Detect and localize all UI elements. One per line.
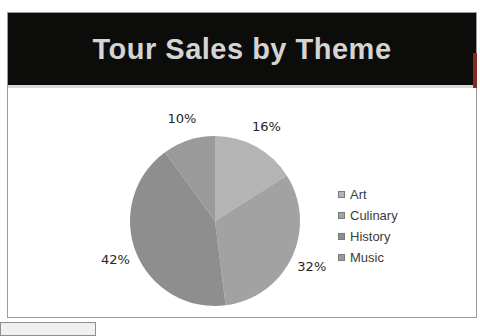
- legend-swatch-icon: [338, 233, 345, 240]
- pie-chart-svg: 16%32%42%10%: [8, 88, 478, 316]
- pie-label-music: 10%: [167, 111, 196, 126]
- clipped-bottom-element: [0, 322, 96, 336]
- pie-chart-area: 16%32%42%10% ArtCulinaryHistoryMusic: [8, 88, 476, 317]
- legend-item-culinary: Culinary: [338, 208, 398, 223]
- legend-swatch-icon: [338, 212, 345, 219]
- figure-caption-text: FIGURE P-65: [4, 0, 76, 2]
- title-banner: Tour Sales by Theme: [8, 13, 476, 88]
- legend-item-art: Art: [338, 187, 398, 202]
- slide-frame: Tour Sales by Theme 16%32%42%10% ArtCuli…: [7, 12, 477, 318]
- legend-label: Culinary: [350, 208, 398, 223]
- legend-label: History: [350, 229, 390, 244]
- legend-item-music: Music: [338, 250, 398, 265]
- legend-item-history: History: [338, 229, 398, 244]
- legend-label: Art: [350, 187, 367, 202]
- legend-swatch-icon: [338, 191, 345, 198]
- pie-label-culinary: 32%: [297, 259, 326, 274]
- slide-title: Tour Sales by Theme: [92, 33, 391, 66]
- pie-label-history: 42%: [101, 252, 130, 267]
- legend-label: Music: [350, 250, 384, 265]
- pie-label-art: 16%: [252, 119, 281, 134]
- clipped-figure-caption: FIGURE P-65: [4, 0, 76, 3]
- legend: ArtCulinaryHistoryMusic: [338, 187, 398, 271]
- red-accent-bar: [473, 53, 477, 88]
- legend-swatch-icon: [338, 254, 345, 261]
